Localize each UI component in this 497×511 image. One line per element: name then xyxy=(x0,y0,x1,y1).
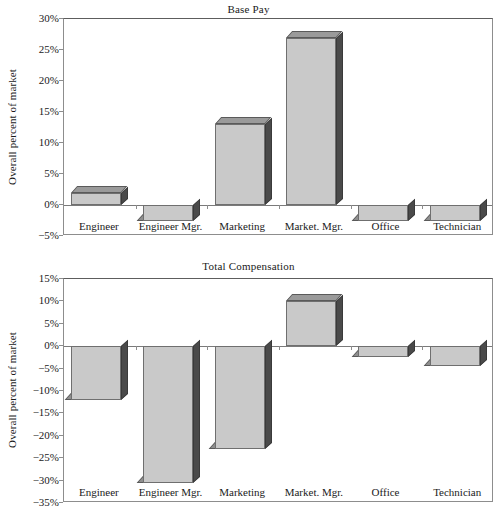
y-axis-tick-label: 25% xyxy=(25,44,59,55)
x-axis-label-marketing: Marketing xyxy=(206,220,278,232)
y-axis-tick-mark xyxy=(59,502,63,503)
y-axis-tick-mark xyxy=(59,412,63,413)
x-axis-tick-mark xyxy=(279,205,280,209)
y-axis-tick-mark xyxy=(59,80,63,81)
y-axis-tick-label: −15% xyxy=(17,407,59,418)
y-axis-tick-label: −10% xyxy=(17,385,59,396)
y-axis-tick-label: −20% xyxy=(17,430,59,441)
y-axis-tick-mark xyxy=(59,345,63,346)
bar-side-face xyxy=(265,118,272,205)
y-axis-tick-mark xyxy=(59,435,63,436)
bar-technician[interactable] xyxy=(430,346,480,366)
x-axis-tick-mark xyxy=(351,346,352,350)
plot-area-base-pay xyxy=(63,18,493,235)
x-axis-label-market-mgr: Market. Mgr. xyxy=(278,486,350,498)
x-axis-label-engineer: Engineer xyxy=(63,486,135,498)
bar-top-face xyxy=(215,117,271,124)
x-axis-tick-mark xyxy=(351,205,352,209)
bar-side-face xyxy=(480,340,487,366)
y-axis-tick-label: 5% xyxy=(25,168,59,179)
x-axis-label-market-mgr: Market. Mgr. xyxy=(278,220,350,232)
bar-side-face xyxy=(121,340,128,400)
y-axis-tick-label: −35% xyxy=(17,497,59,508)
y-axis-tick-mark xyxy=(59,18,63,19)
bar-market-mgr[interactable] xyxy=(286,38,336,205)
x-axis-tick-mark xyxy=(422,205,423,209)
y-axis-tick-mark xyxy=(59,480,63,481)
zero-baseline xyxy=(64,205,492,206)
bar-front-face xyxy=(358,346,408,357)
x-axis-tick-mark xyxy=(207,346,208,350)
chart-title-base-pay: Base Pay xyxy=(0,3,497,15)
y-axis-tick-label: 0% xyxy=(25,199,59,210)
x-axis-tick-mark xyxy=(136,346,137,350)
y-axis-tick-mark xyxy=(59,278,63,279)
bar-side-face xyxy=(193,199,200,221)
y-axis-tick-mark xyxy=(59,390,63,391)
x-axis-category-labels: EngineerEngineer Mgr.MarketingMarket. Mg… xyxy=(63,220,493,232)
bar-engineer[interactable] xyxy=(71,193,121,205)
bar-top-face xyxy=(71,186,127,193)
bar-engineer-mgr[interactable] xyxy=(143,346,193,483)
chart-base-pay: Base Pay Overall percent of market 30%25… xyxy=(0,0,497,255)
bar-front-face xyxy=(286,38,336,205)
bar-marketing[interactable] xyxy=(215,346,265,449)
bar-front-face xyxy=(286,301,336,346)
x-axis-tick-mark xyxy=(207,205,208,209)
bar-top-face xyxy=(286,31,342,38)
bar-front-face xyxy=(71,346,121,400)
x-axis-tick-mark xyxy=(279,346,280,350)
bar-side-face xyxy=(480,199,487,221)
bar-front-face xyxy=(430,346,480,366)
bar-side-face xyxy=(336,295,343,346)
y-axis-tick-mark xyxy=(59,142,63,143)
x-axis-label-engineer-mgr: Engineer Mgr. xyxy=(135,486,207,498)
bar-technician[interactable] xyxy=(430,205,480,221)
plot-area-total-compensation xyxy=(63,278,493,502)
bar-front-face xyxy=(430,205,480,221)
bar-market-mgr[interactable] xyxy=(286,301,336,346)
y-axis-tick-label: −30% xyxy=(17,475,59,486)
bar-side-face xyxy=(336,31,343,205)
bar-office[interactable] xyxy=(358,346,408,357)
y-axis-tick-label: −5% xyxy=(17,363,59,374)
y-axis-title-base-pay: Overall percent of market xyxy=(6,69,18,185)
bar-front-face xyxy=(143,346,193,483)
bar-side-face xyxy=(193,340,200,483)
bar-marketing[interactable] xyxy=(215,124,265,205)
x-axis-category-labels: EngineerEngineer Mgr.MarketingMarket. Mg… xyxy=(63,486,493,498)
y-axis-tick-mark xyxy=(59,300,63,301)
bar-front-face xyxy=(358,205,408,221)
y-axis-tick-mark xyxy=(59,204,63,205)
y-axis-tick-mark xyxy=(59,235,63,236)
y-axis-tick-mark xyxy=(59,49,63,50)
y-axis-tick-label: 15% xyxy=(17,273,59,284)
y-axis-tick-mark xyxy=(59,173,63,174)
bar-side-face xyxy=(408,199,415,221)
y-axis-tick-label: 30% xyxy=(25,13,59,24)
bar-side-face xyxy=(408,340,415,357)
y-axis-tick-mark xyxy=(59,111,63,112)
x-axis-label-technician: Technician xyxy=(421,220,493,232)
chart-title-total-compensation: Total Compensation xyxy=(0,260,497,272)
y-axis-tick-label: 0% xyxy=(17,340,59,351)
y-axis-tick-label: 20% xyxy=(25,75,59,86)
y-axis-tick-mark xyxy=(59,368,63,369)
bar-front-face xyxy=(215,346,265,449)
chart-total-compensation: Total Compensation Overall percent of ma… xyxy=(0,255,497,511)
x-axis-label-engineer: Engineer xyxy=(63,220,135,232)
bar-side-face xyxy=(265,340,272,449)
bar-engineer-mgr[interactable] xyxy=(143,205,193,221)
y-axis-tick-label: 10% xyxy=(25,137,59,148)
bar-engineer[interactable] xyxy=(71,346,121,400)
y-axis-tick-label: −25% xyxy=(17,452,59,463)
x-axis-label-marketing: Marketing xyxy=(206,486,278,498)
y-axis-tick-mark xyxy=(59,457,63,458)
zero-baseline xyxy=(64,346,492,347)
x-axis-tick-mark xyxy=(136,205,137,209)
x-axis-label-office: Office xyxy=(350,220,422,232)
bar-office[interactable] xyxy=(358,205,408,221)
bar-top-face xyxy=(286,294,342,301)
bar-front-face xyxy=(71,193,121,205)
y-axis-tick-label: 15% xyxy=(25,106,59,117)
